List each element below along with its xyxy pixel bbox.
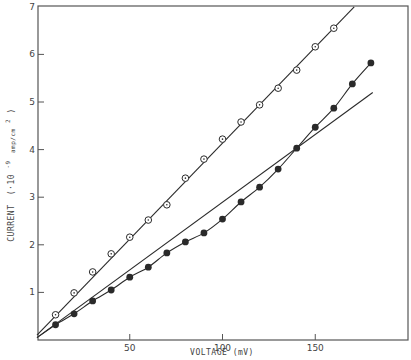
open-circle-point bbox=[126, 234, 133, 241]
filled-circle-point bbox=[330, 105, 337, 112]
open-circle-point bbox=[108, 251, 115, 258]
filled-circle-point bbox=[182, 239, 189, 246]
y-tick-label: 2 bbox=[29, 240, 35, 250]
y-tick-label: 5 bbox=[29, 97, 35, 107]
open-circle-point bbox=[164, 202, 171, 209]
y-tick-label: 4 bbox=[29, 145, 35, 155]
plot-frame bbox=[38, 6, 408, 340]
filled-circle-point bbox=[201, 230, 208, 237]
open-circle-point bbox=[71, 290, 78, 297]
y-axis-title: CURRENT (·10 -9 amp/cm 2 ) bbox=[3, 108, 17, 242]
filled-circle-point bbox=[71, 310, 78, 317]
open-circle-point bbox=[275, 85, 282, 92]
filled-series-fit-line bbox=[37, 92, 373, 337]
filled-circle-point bbox=[368, 60, 375, 67]
open-circle-point bbox=[293, 67, 300, 74]
y-tick-label: 1 bbox=[29, 287, 35, 297]
filled-circle-point bbox=[52, 321, 59, 328]
x-tick-label: 50 bbox=[124, 343, 136, 353]
open-circle-point bbox=[182, 175, 189, 182]
filled-circle-point bbox=[163, 249, 170, 256]
svg-text:CURRENT (·10 -9: CURRENT (·10 -9 amp/cm 2 ) bbox=[3, 108, 17, 242]
y-tick-label: 7 bbox=[29, 2, 35, 12]
filled-circle-point bbox=[126, 274, 133, 281]
filled-circle-point bbox=[349, 81, 356, 88]
open-circle-point bbox=[256, 102, 263, 109]
open-circle-point bbox=[52, 311, 59, 318]
data-series bbox=[52, 25, 374, 328]
filled-circle-point bbox=[238, 199, 245, 206]
filled-circle-point bbox=[293, 145, 300, 152]
filled-circle-point bbox=[275, 166, 282, 173]
open-circle-point bbox=[219, 136, 226, 143]
filled-circle-point bbox=[145, 264, 152, 271]
filled-series-curve bbox=[37, 63, 371, 338]
open-circle-point bbox=[89, 269, 96, 276]
filled-circle-point bbox=[89, 298, 96, 305]
open-circle-point bbox=[312, 43, 319, 50]
open-circle-point bbox=[238, 119, 245, 126]
chart-canvas: 1234567 50100150 VOLTAGE (mV) CURRENT (·… bbox=[0, 0, 411, 360]
open-circle-point bbox=[201, 156, 208, 163]
x-axis-title: VOLTAGE (mV) bbox=[190, 348, 254, 357]
x-tick-label: 150 bbox=[307, 343, 324, 353]
filled-circle-point bbox=[219, 216, 226, 223]
open-circle-point bbox=[145, 217, 152, 224]
open-circle-point bbox=[331, 25, 338, 32]
y-tick-label: 3 bbox=[29, 192, 35, 202]
filled-circle-point bbox=[256, 184, 263, 191]
open-series-fit-line bbox=[37, 7, 354, 335]
fit-lines bbox=[37, 7, 373, 338]
filled-circle-point bbox=[108, 287, 115, 294]
filled-circle-point bbox=[312, 124, 319, 131]
y-axis-ticks: 1234567 bbox=[29, 2, 44, 298]
y-tick-label: 6 bbox=[29, 49, 35, 59]
